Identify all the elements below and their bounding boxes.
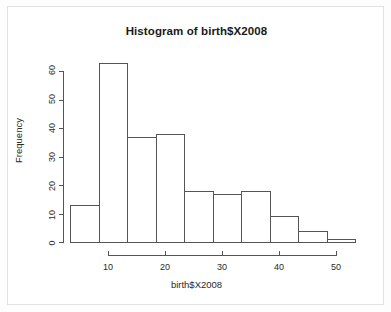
histogram-bar (99, 63, 128, 243)
histogram-bar (242, 191, 271, 242)
histogram-plot (8, 7, 385, 306)
histogram-bar (327, 240, 356, 243)
histogram-bars (71, 63, 356, 243)
screenshot-root: Histogram of birth$X2008 Frequency birth… (0, 0, 391, 312)
histogram-bar (185, 191, 214, 242)
y-axis (59, 72, 64, 243)
histogram-bar (299, 231, 328, 242)
histogram-bar (270, 217, 299, 243)
histogram-bar (128, 137, 157, 242)
histogram-bar (213, 194, 242, 242)
plot-frame: Histogram of birth$X2008 Frequency birth… (7, 6, 384, 305)
histogram-bar (71, 206, 100, 243)
histogram-bar (156, 134, 185, 242)
x-axis (108, 251, 336, 256)
